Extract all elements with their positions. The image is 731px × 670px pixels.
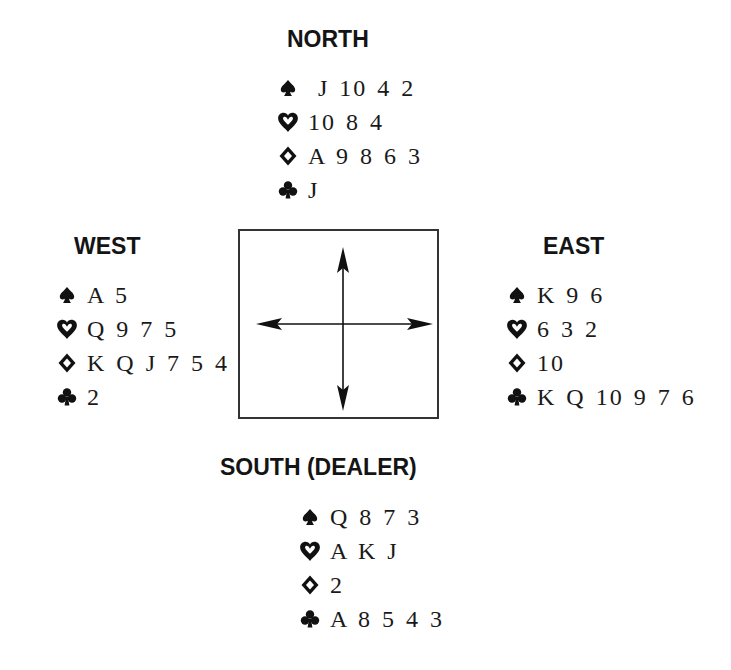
south-hand: Q 8 7 3 A K J 2 A 8 5 4 3 (298, 500, 444, 636)
south-clubs: A 8 5 4 3 (330, 606, 444, 633)
west-hearts: Q 9 7 5 (87, 316, 178, 343)
east-title: EAST (543, 233, 604, 260)
club-icon (55, 387, 79, 407)
north-spades-row: J 10 4 2 (276, 71, 422, 105)
west-diamonds-row: K Q J 7 5 4 (55, 346, 229, 380)
north-hand: J 10 4 2 10 8 4 A 9 8 6 3 J (276, 71, 422, 207)
west-clubs: 2 (87, 384, 101, 411)
spade-icon (298, 508, 322, 526)
south-title: SOUTH (DEALER) (220, 454, 417, 481)
spade-icon (55, 286, 79, 304)
diamond-icon (505, 352, 529, 374)
north-hearts: 10 8 4 (308, 109, 384, 136)
north-diamonds: A 9 8 6 3 (308, 143, 422, 170)
west-title: WEST (74, 233, 140, 260)
spade-icon (276, 79, 300, 97)
west-spades-row: A 5 (55, 278, 229, 312)
south-diamonds-row: 2 (298, 568, 444, 602)
heart-icon (298, 540, 322, 562)
east-spades-row: K 9 6 (505, 278, 696, 312)
heart-icon (276, 111, 300, 133)
west-diamonds: K Q J 7 5 4 (87, 350, 229, 377)
spade-icon (505, 286, 529, 304)
north-hearts-row: 10 8 4 (276, 105, 422, 139)
compass-arrows-icon (240, 231, 441, 421)
club-icon (298, 609, 322, 629)
east-clubs: K Q 10 9 7 6 (537, 384, 696, 411)
north-clubs-row: J (276, 173, 422, 207)
compass-table-box (238, 229, 439, 419)
east-hearts: 6 3 2 (537, 316, 599, 343)
heart-icon (505, 318, 529, 340)
diamond-icon (276, 145, 300, 167)
diamond-icon (298, 574, 322, 596)
west-hearts-row: Q 9 7 5 (55, 312, 229, 346)
south-spades: Q 8 7 3 (330, 504, 421, 531)
west-clubs-row: 2 (55, 380, 229, 414)
east-hand: K 9 6 6 3 2 10 K Q 10 9 7 6 (505, 278, 696, 414)
north-title: NORTH (287, 26, 369, 53)
east-clubs-row: K Q 10 9 7 6 (505, 380, 696, 414)
south-hearts-row: A K J (298, 534, 444, 568)
east-diamonds-row: 10 (505, 346, 696, 380)
club-icon (276, 180, 300, 200)
east-hearts-row: 6 3 2 (505, 312, 696, 346)
diamond-icon (55, 352, 79, 374)
west-hand: A 5 Q 9 7 5 K Q J 7 5 4 2 (55, 278, 229, 414)
south-clubs-row: A 8 5 4 3 (298, 602, 444, 636)
east-spades: K 9 6 (537, 282, 604, 309)
south-spades-row: Q 8 7 3 (298, 500, 444, 534)
south-hearts: A K J (330, 538, 399, 565)
heart-icon (55, 318, 79, 340)
east-diamonds: 10 (537, 350, 565, 377)
north-diamonds-row: A 9 8 6 3 (276, 139, 422, 173)
west-spades: A 5 (87, 282, 129, 309)
club-icon (505, 387, 529, 407)
north-clubs: J (308, 177, 319, 204)
north-spades: J 10 4 2 (308, 75, 415, 102)
south-diamonds: 2 (330, 572, 344, 599)
